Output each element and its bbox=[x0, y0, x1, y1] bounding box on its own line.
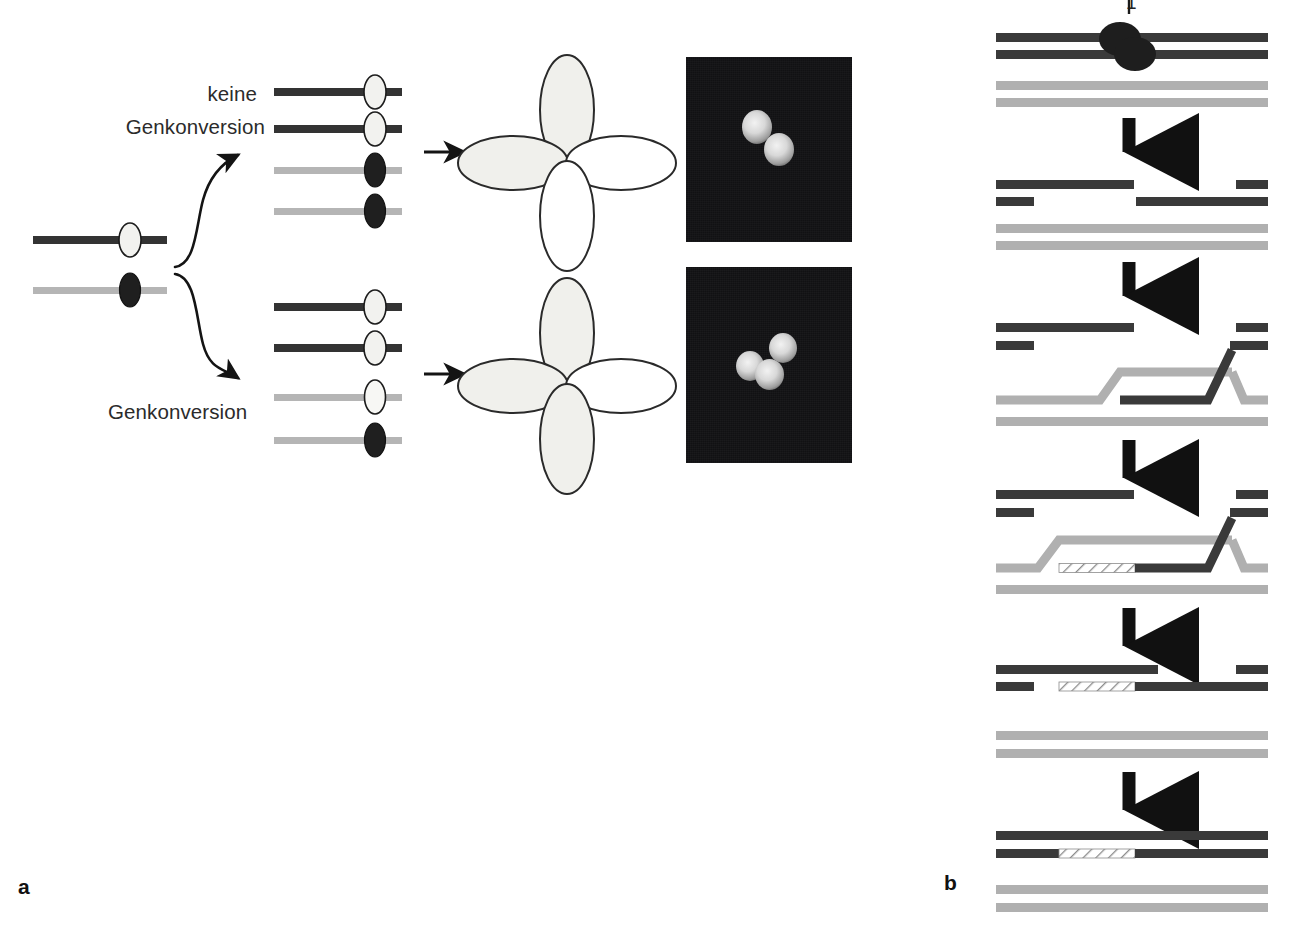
newly-synthesized-dna-hatched bbox=[1059, 682, 1135, 691]
allele-marker-dark bbox=[365, 194, 386, 228]
tetrad-3-1 bbox=[458, 278, 676, 494]
parental-chromatid-dark-strand bbox=[33, 236, 167, 244]
repaired-duplex-bottom-right bbox=[1135, 849, 1268, 858]
parental-marker-white-allele bbox=[119, 223, 141, 257]
template-duplex-top-strand bbox=[996, 224, 1268, 233]
allele-marker-white bbox=[364, 290, 386, 324]
template-duplex-bottom-strand bbox=[996, 98, 1268, 107]
allele-marker-white bbox=[364, 112, 386, 146]
broken-top-left-strand bbox=[996, 323, 1134, 332]
step-5-strand-displacement-annealing bbox=[996, 665, 1268, 758]
panel-b-graphics bbox=[960, 0, 1298, 926]
broken-bottom-left-strand bbox=[996, 508, 1034, 517]
spore-bright bbox=[769, 333, 797, 363]
resected-top-right-strand bbox=[1236, 180, 1268, 189]
repaired-top-left-strand bbox=[996, 665, 1158, 674]
panel-b-label: b bbox=[944, 872, 957, 893]
tetrad-lobe-bottom-empty bbox=[540, 161, 594, 271]
allele-marker-dark bbox=[365, 423, 386, 457]
products-no-conversion bbox=[274, 75, 402, 228]
tetrad-lobe-bottom-filled bbox=[540, 384, 594, 494]
branch-arrow-down bbox=[175, 274, 238, 378]
allele-marker-converted-white bbox=[365, 380, 386, 414]
template-duplex-bottom-strand bbox=[996, 241, 1268, 250]
repaired-top-right-strand bbox=[1236, 665, 1268, 674]
micrograph-3-bright-spores bbox=[686, 267, 852, 463]
parental-chromatid-light-strand bbox=[33, 287, 167, 294]
resected-top-left-strand bbox=[996, 180, 1134, 189]
allele-marker-white bbox=[364, 75, 386, 109]
allele-marker-white bbox=[364, 331, 386, 365]
repaired-duplex-bottom-left bbox=[996, 849, 1059, 858]
template-duplex-bottom-strand bbox=[996, 749, 1268, 758]
parental-chromatids bbox=[33, 223, 167, 307]
broken-top-left-strand bbox=[996, 490, 1134, 499]
newly-synthesized-dna-hatched bbox=[1059, 564, 1135, 573]
step-3-strand-invasion bbox=[996, 323, 1268, 426]
template-duplex-top-strand bbox=[996, 885, 1268, 894]
branch-arrow-up bbox=[175, 155, 238, 267]
micrograph-2-bright-spores bbox=[686, 57, 852, 242]
step-1-double-strand-break bbox=[996, 22, 1268, 107]
resected-bottom-right-strand bbox=[1136, 197, 1268, 206]
broken-bottom-right-strand bbox=[1230, 508, 1268, 517]
allele-marker-dark bbox=[365, 153, 386, 187]
step-2-end-resection bbox=[996, 180, 1268, 250]
branch-arrows bbox=[175, 155, 238, 378]
broken-bottom-right-strand bbox=[1230, 341, 1268, 350]
spore-bright bbox=[764, 133, 794, 166]
step-6-ligated-duplex bbox=[996, 831, 1268, 912]
products-gene-conversion bbox=[274, 290, 402, 457]
broken-top-right-strand bbox=[1236, 490, 1268, 499]
template-duplex-bottom-strand bbox=[996, 585, 1268, 594]
parental-marker-dark-allele bbox=[120, 273, 141, 307]
figure-root: a keine Genkonversion Genkonversion bbox=[0, 0, 1298, 926]
resected-bottom-left-strand bbox=[996, 197, 1034, 206]
repaired-bottom-left-strand bbox=[996, 682, 1034, 691]
d-loop-rejoin-strand bbox=[1232, 540, 1268, 568]
repaired-bottom-right-strand bbox=[1135, 682, 1268, 691]
step-4-dna-synthesis bbox=[996, 490, 1268, 594]
template-duplex-bottom-strand bbox=[996, 903, 1268, 912]
tetrad-2-2 bbox=[458, 55, 676, 271]
newly-synthesized-dna-hatched bbox=[1059, 849, 1135, 858]
d-loop-rejoin-strand bbox=[1232, 372, 1268, 400]
break-protein-blob-lower bbox=[1114, 37, 1156, 71]
template-duplex-top-strand bbox=[996, 81, 1268, 90]
broken-bottom-left-strand bbox=[996, 341, 1034, 350]
template-duplex-bottom-strand bbox=[996, 417, 1268, 426]
spore-bright bbox=[755, 359, 784, 390]
broken-top-right-strand bbox=[1236, 323, 1268, 332]
template-duplex-top-strand bbox=[996, 731, 1268, 740]
repaired-duplex-top-strand bbox=[996, 831, 1268, 840]
